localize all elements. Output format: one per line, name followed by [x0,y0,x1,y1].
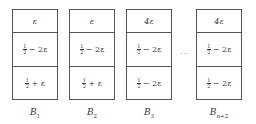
bin-bn2: 4ε 12 − 2ε 12 − 2ε [196,9,242,100]
cell-expr: + ε [88,79,101,88]
bin-label-b1: B1 [12,107,58,119]
bin-cell-top: 4ε [127,10,171,33]
fraction-half: 12 [80,44,84,55]
cell-expr: − 2ε [213,79,231,88]
bin-label-bn2: Bn+2 [196,107,242,119]
fraction-half: 12 [137,78,141,89]
bin-cell-bottom: 12 + ε [13,67,57,99]
bin-cell-top: 4ε [197,10,241,33]
ellipsis: ··· [180,49,189,58]
fraction-half: 12 [207,78,211,89]
bin-cell-middle: 12 − 2ε [13,33,57,67]
cell-expr: − 2ε [143,45,161,54]
fraction-half: 12 [82,78,86,89]
bin-cell-bottom: 12 − 2ε [197,67,241,99]
bin-cell-top: ε [70,10,114,33]
cell-expr: − 2ε [86,45,104,54]
bin-cell-middle: 12 − 2ε [70,33,114,67]
fraction-half: 12 [207,44,211,55]
bin-label-b3: B3 [126,107,172,119]
cell-expr: + ε [31,79,44,88]
fraction-half: 12 [137,44,141,55]
bin-cell-top: ε [13,10,57,33]
cell-expr: − 2ε [29,45,47,54]
bin-cell-middle: 12 − 2ε [197,33,241,67]
cell-expr: − 2ε [143,79,161,88]
bin-b1: ε 12 − 2ε 12 + ε [12,9,58,100]
bin-b2: ε 12 − 2ε 12 + ε [69,9,115,100]
cell-expr: − 2ε [213,45,231,54]
bin-cell-bottom: 12 + ε [70,67,114,99]
bin-label-b2: B2 [69,107,115,119]
bin-b3: 4ε 12 − 2ε 12 − 2ε [126,9,172,100]
fraction-half: 12 [23,44,27,55]
bin-cell-bottom: 12 − 2ε [127,67,171,99]
bin-cell-middle: 12 − 2ε [127,33,171,67]
fraction-half: 12 [25,78,29,89]
